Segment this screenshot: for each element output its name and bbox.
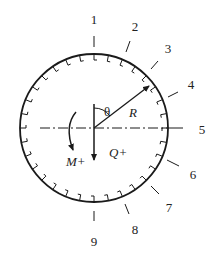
section-label-4: 4 <box>188 77 195 92</box>
section-tick-3 <box>151 61 158 69</box>
section-tick-2 <box>126 41 130 52</box>
section-label-2: 2 <box>132 19 139 34</box>
section-label-5: 5 <box>199 122 206 137</box>
section-label-7: 7 <box>166 200 173 215</box>
theta-label: θ <box>104 104 110 119</box>
shear-force-label: Q+ <box>109 145 127 160</box>
moment-label: M+ <box>65 154 86 169</box>
radius-arrow <box>94 86 149 128</box>
section-label-1: 1 <box>91 12 98 27</box>
section-label-6: 6 <box>190 167 197 182</box>
section-label-9: 9 <box>91 234 98 249</box>
ring-section-diagram: 123456789 θ R Q+ M+ <box>0 0 215 255</box>
radius-label: R <box>128 105 137 120</box>
section-tick-6 <box>167 160 179 166</box>
section-tick-8 <box>125 204 129 214</box>
moment-arrow <box>69 112 76 150</box>
section-tick-7 <box>151 186 159 194</box>
section-label-8: 8 <box>132 222 139 237</box>
section-label-3: 3 <box>165 41 172 56</box>
section-tick-4 <box>168 92 178 97</box>
